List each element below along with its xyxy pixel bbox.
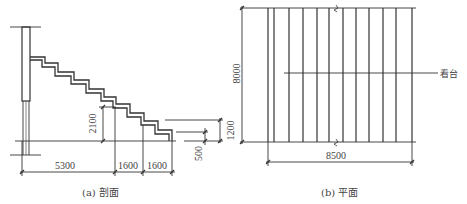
- dim-1600-a: 1600: [118, 160, 138, 171]
- dim-1600-b: 1600: [147, 160, 167, 171]
- dim-1200: 1200: [225, 121, 236, 141]
- dim-8000: 8000: [231, 64, 242, 84]
- dim-2100: 2100: [87, 114, 98, 134]
- plan-caption: (b) 平面: [321, 184, 358, 199]
- plan-drawing: [0, 0, 467, 204]
- dim-500: 500: [193, 146, 204, 161]
- dim-8500: 8500: [326, 150, 346, 161]
- section-caption: (a) 剖面: [82, 184, 119, 199]
- stand-label: 看台: [440, 67, 458, 80]
- dim-5300: 5300: [55, 160, 75, 171]
